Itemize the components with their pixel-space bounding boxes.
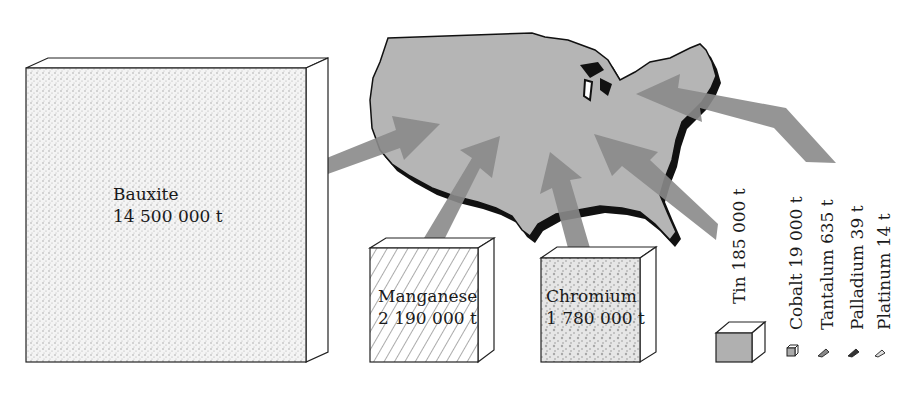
tin-label: Tin 185 000 t [729, 188, 749, 304]
mineral-imports-diagram: Bauxite 14 500 000 t Manganese 2 190 000… [0, 0, 915, 393]
manganese-name: Manganese [378, 285, 477, 307]
bauxite-name: Bauxite [113, 183, 223, 205]
platinum-prism-icon [875, 350, 885, 357]
chromium-label: Chromium 1 780 000 t [546, 285, 645, 329]
tin-cube [716, 322, 765, 362]
tantalum-label: Tantalum 635 t [817, 199, 837, 330]
manganese-label: Manganese 2 190 000 t [378, 285, 477, 329]
chromium-name: Chromium [546, 285, 645, 307]
cobalt-label: Cobalt 19 000 t [786, 196, 806, 330]
tantalum-prism-icon [818, 349, 829, 357]
palladium-label: Palladium 39 t [847, 206, 867, 330]
manganese-amount: 2 190 000 t [378, 307, 477, 329]
bauxite-amount: 14 500 000 t [113, 205, 223, 227]
chromium-amount: 1 780 000 t [546, 307, 645, 329]
cobalt-cube-icon [787, 345, 798, 356]
bauxite-label: Bauxite 14 500 000 t [113, 183, 223, 227]
platinum-label: Platinum 14 t [874, 213, 894, 330]
palladium-prism-icon [848, 349, 859, 357]
